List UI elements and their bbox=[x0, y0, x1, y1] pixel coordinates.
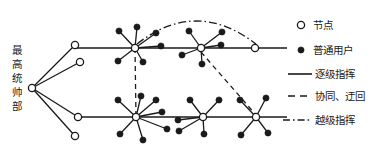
user-dot bbox=[237, 97, 243, 103]
user-dot bbox=[115, 97, 121, 103]
user-dot bbox=[218, 42, 224, 48]
node-u2 bbox=[76, 58, 83, 65]
user-dot bbox=[140, 59, 146, 65]
user-dot bbox=[138, 93, 144, 99]
user-dot bbox=[117, 131, 123, 137]
legend-item-hierarchical-command: 逐级指挥 bbox=[288, 68, 356, 80]
root-label-char-2: 统 bbox=[12, 72, 23, 84]
legend-item-coordination: 协同、迂回 bbox=[288, 90, 365, 102]
edge-root-u2 bbox=[32, 62, 80, 88]
edge-root-l2 bbox=[32, 88, 75, 136]
user-dot bbox=[186, 28, 192, 34]
user-dot bbox=[216, 97, 222, 103]
user-dot bbox=[175, 117, 181, 123]
user-dot bbox=[153, 97, 159, 103]
legend-label-node: 节点 bbox=[313, 19, 333, 31]
edge-root-l1 bbox=[32, 88, 78, 117]
user-dot bbox=[265, 130, 271, 136]
user-dot bbox=[201, 131, 207, 137]
node-hubC bbox=[251, 44, 258, 51]
user-dot bbox=[199, 61, 205, 67]
node-u1 bbox=[71, 41, 78, 48]
node-root bbox=[28, 84, 35, 91]
user-dot bbox=[187, 97, 193, 103]
root-label-char-4: 部 bbox=[12, 100, 22, 112]
node-hubB bbox=[197, 44, 204, 51]
legend-label-skip-level-command: 越级指挥 bbox=[315, 114, 356, 126]
edge-root-u1 bbox=[32, 45, 75, 88]
node-l1 bbox=[74, 113, 81, 120]
legend-item-node: 节点 bbox=[297, 19, 333, 31]
user-dot bbox=[158, 43, 164, 49]
node-hubA bbox=[131, 44, 138, 51]
user-dot bbox=[159, 109, 165, 115]
legend-label-user: 普通用户 bbox=[313, 44, 353, 56]
user-dot bbox=[219, 29, 225, 35]
user-dot bbox=[116, 28, 122, 34]
root-label-char-0: 最 bbox=[12, 44, 23, 56]
user-dot bbox=[164, 126, 170, 132]
legend-item-user: 普通用户 bbox=[298, 44, 353, 56]
diagram-canvas: 最 高 统 帅 部 节点 普通用户 逐级指挥 bbox=[0, 0, 374, 158]
hollow-circle-icon bbox=[297, 21, 304, 28]
dashed-edge-hubB-hubF bbox=[201, 52, 256, 115]
root-label-char-1: 高 bbox=[12, 58, 22, 70]
legend-label-hierarchical-command: 逐级指挥 bbox=[315, 68, 356, 80]
solid-command-links bbox=[32, 45, 287, 136]
node-l2 bbox=[71, 132, 78, 139]
node-hubF bbox=[252, 113, 259, 120]
legend-label-coordination: 协同、迂回 bbox=[315, 90, 365, 102]
user-dot bbox=[263, 95, 269, 101]
node-hubD bbox=[132, 113, 139, 120]
user-spokes bbox=[118, 27, 268, 140]
legend: 节点 普通用户 逐级指挥 协同、迂回 越级指挥 bbox=[283, 19, 365, 126]
user-dot bbox=[153, 30, 159, 36]
node-hubE bbox=[199, 113, 206, 120]
user-dot bbox=[179, 52, 185, 58]
user-dot bbox=[115, 58, 121, 64]
user-dot bbox=[140, 137, 146, 143]
user-dot bbox=[134, 24, 140, 30]
root-label: 最 高 统 帅 部 bbox=[12, 44, 23, 112]
user-dot bbox=[238, 132, 244, 138]
command-network-diagram: 最 高 统 帅 部 节点 普通用户 逐级指挥 bbox=[0, 0, 374, 158]
root-label-char-3: 帅 bbox=[12, 86, 22, 98]
user-dot bbox=[176, 128, 182, 134]
filled-circle-icon bbox=[298, 47, 304, 53]
dashed-edge-hubA-hubD bbox=[135, 48, 136, 117]
legend-item-skip-level-command: 越级指挥 bbox=[283, 114, 356, 126]
